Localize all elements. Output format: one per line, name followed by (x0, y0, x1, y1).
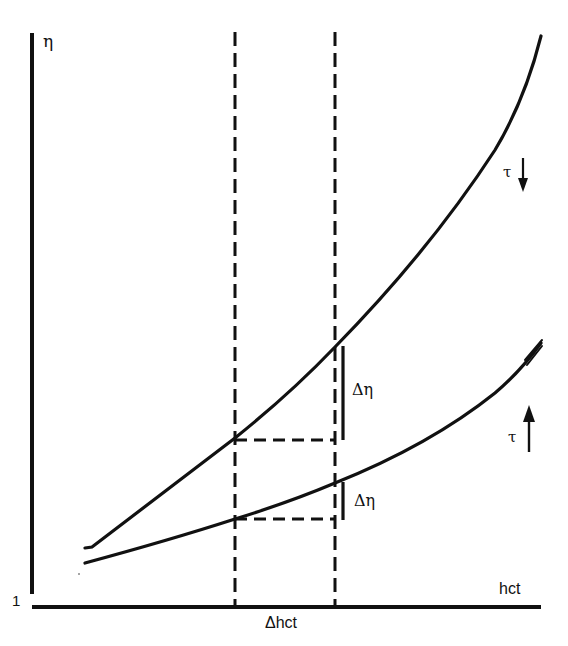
speck (78, 573, 80, 575)
tau-up-label: τ (508, 428, 516, 446)
y-origin-label: 1 (12, 592, 20, 609)
x-axis-label: hct (499, 580, 520, 598)
tau-down-label: τ (503, 163, 511, 181)
curve-tau-up (85, 343, 541, 563)
viscosity-hematocrit-diagram (0, 0, 568, 646)
arrow-down-icon (518, 158, 528, 192)
delta-eta-lower-label: Δη (354, 491, 375, 510)
delta-eta-upper-label: Δη (352, 380, 373, 399)
curve-tau-down (85, 36, 541, 548)
y-axis-label: η (43, 31, 53, 51)
arrow-up-icon (523, 405, 535, 452)
delta-hct-label: Δhct (265, 614, 297, 632)
